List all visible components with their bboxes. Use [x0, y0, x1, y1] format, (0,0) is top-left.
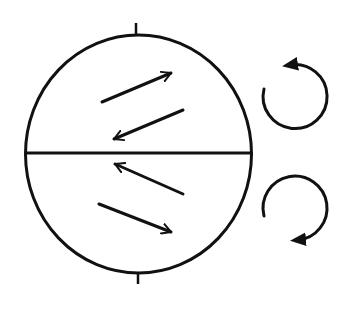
arrow-northwest-lower-icon: [115, 164, 183, 194]
arrow-southwest-upper-icon: [114, 110, 183, 139]
globe-rotation-diagram: [0, 0, 345, 312]
rotation-arrows: [263, 65, 327, 240]
clockwise-rotation-icon: [263, 176, 327, 240]
arrow-southeast-lower-icon: [99, 204, 171, 232]
counterclockwise-rotation-icon: [263, 65, 327, 129]
arrow-northeast-upper-icon: [102, 73, 171, 102]
